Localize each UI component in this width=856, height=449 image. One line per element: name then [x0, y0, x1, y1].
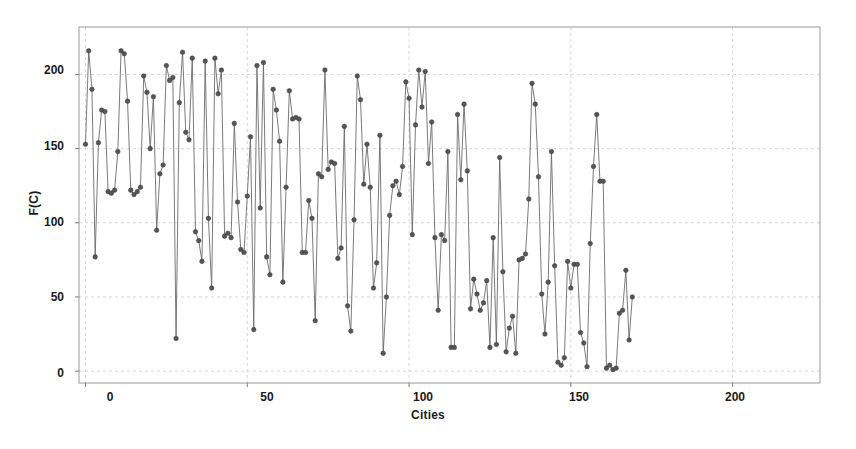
chart-figure: 200 150 100 50 0 0 50 100 150 200 Cities… — [0, 0, 856, 449]
plot-area — [0, 0, 856, 449]
